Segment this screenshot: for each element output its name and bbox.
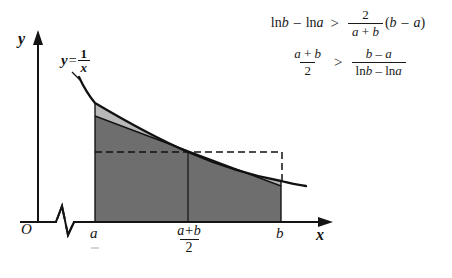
formula2-right-num-minus: – <box>375 46 382 61</box>
formula1-tail-minus: – <box>402 15 409 31</box>
formula1-fraction-denominator: a + b <box>348 23 383 39</box>
curve-label-fraction: 1 x <box>78 47 91 74</box>
tick-label-b: b <box>276 226 284 241</box>
formula2-right-den-a: a <box>395 63 402 78</box>
curve-label-numerator: 1 <box>78 47 91 60</box>
formula2-right-fraction: b – a lnb – lna <box>352 47 406 77</box>
formula-second: a + b 2 > b – a lnb – lna <box>248 47 448 77</box>
formula2-left-denominator: 2 <box>300 62 315 78</box>
formula1-tail-a: a <box>414 15 421 31</box>
formula1-ln-b-op: ln <box>271 15 282 31</box>
formula2-left-num-b: b <box>315 46 322 61</box>
formula1-fraction: 2 a + b <box>348 8 383 38</box>
formula2-relation: > <box>334 54 342 71</box>
formula1-paren-close: ) <box>421 15 426 31</box>
y-axis-arrow <box>33 30 43 45</box>
formula2-right-den-ln-a-op: ln <box>385 63 395 78</box>
formula1-ln-a-arg: a <box>317 15 324 31</box>
formula2-left-num-plus: + <box>304 46 311 61</box>
x-axis-label: x <box>316 227 324 243</box>
formula1-den-plus: + <box>362 24 369 39</box>
figure-page: y x O a b a+b 2 y = 1 x lnb – lna > 2 a … <box>0 0 452 278</box>
curve-label-denominator: x <box>78 60 91 74</box>
formula1-ln-b-arg: b <box>282 15 289 31</box>
formula2-left-fraction: a + b 2 <box>290 47 325 77</box>
formula-block: lnb – lna > 2 a + b (b–a) a + b 2 > b – … <box>248 8 448 78</box>
formula1-den-b: b <box>372 24 379 39</box>
formula2-right-num-b: b <box>366 46 373 61</box>
tick-label-midpoint-numerator: a+b <box>174 224 203 239</box>
formula2-right-den-ln-b-op: ln <box>356 63 366 78</box>
curve-label-equals: = <box>69 53 77 69</box>
curve-equation-label: y = 1 x <box>61 47 90 74</box>
formula2-left-num-a: a <box>294 46 301 61</box>
formula1-ln-a-op: ln <box>306 15 317 31</box>
formula2-right-num-a: a <box>385 46 392 61</box>
y-axis-label: y <box>18 31 25 47</box>
formula1-fraction-numerator: 2 <box>358 8 373 23</box>
origin-label: O <box>21 222 32 237</box>
formula1-den-a: a <box>352 24 359 39</box>
formula1-relation: > <box>331 15 339 32</box>
formula2-right-numerator: b – a <box>362 47 396 62</box>
formula2-right-denominator: lnb – lna <box>352 62 406 78</box>
formula2-right-den-minus: – <box>375 63 382 78</box>
formula1-tail-b: b <box>390 15 397 31</box>
formula2-left-numerator: a + b <box>290 47 325 62</box>
formula-first: lnb – lna > 2 a + b (b–a) <box>248 8 448 38</box>
curve-label-y: y <box>61 52 68 69</box>
formula1-minus: – <box>294 15 301 31</box>
tick-label-midpoint-denominator: 2 <box>180 239 199 255</box>
tick-label-a: a <box>90 226 98 241</box>
tick-label-midpoint: a+b 2 <box>166 224 212 255</box>
formula2-right-den-b: b <box>366 63 373 78</box>
